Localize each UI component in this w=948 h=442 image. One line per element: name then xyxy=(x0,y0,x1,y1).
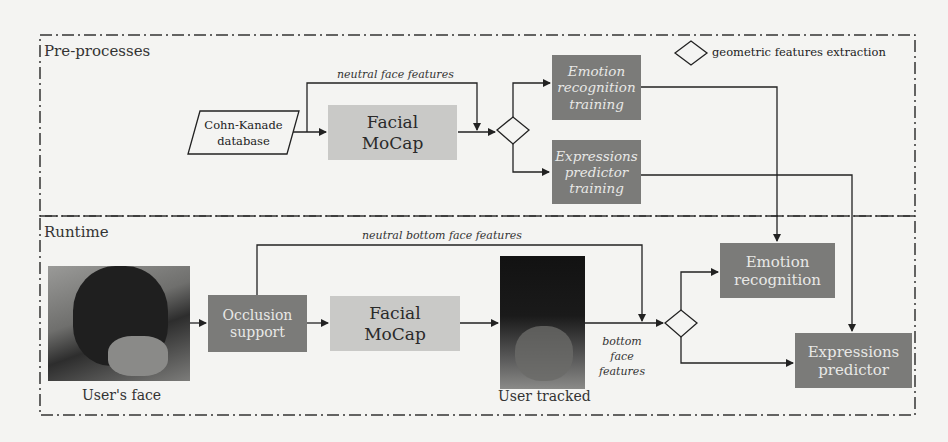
user-tracked-caption: User tracked xyxy=(498,388,591,404)
expr-training-line2: predictor xyxy=(565,164,629,180)
bottom-face-features-label: bottom face features xyxy=(596,335,648,380)
emotion-training-line2: recognition xyxy=(557,79,635,95)
occlusion-line2: support xyxy=(230,324,285,341)
expr-training-line1: Expressions xyxy=(555,148,637,164)
bottom-features-line1: bottom xyxy=(596,335,648,350)
facial-mocap-runtime: Facial MoCap xyxy=(330,296,460,351)
neutral-bottom-features-label: neutral bottom face features xyxy=(362,229,522,242)
occlusion-support: Occlusion support xyxy=(208,295,307,352)
database-node: Cohn-Kanade database xyxy=(187,110,300,155)
tracked-face xyxy=(515,326,573,381)
bottom-features-line3: features xyxy=(596,365,648,380)
mocap-runtime-line1: Facial xyxy=(369,303,420,323)
user-tracked-photo xyxy=(500,256,585,389)
section-label-runtime: Runtime xyxy=(44,223,109,241)
legend-diamond-text: geometric features extraction xyxy=(712,45,886,59)
emotion-line2: recognition xyxy=(734,271,821,289)
expr-training-line3: training xyxy=(569,180,624,196)
neutral-face-features-label: neutral face features xyxy=(337,68,454,81)
mocap-line2: MoCap xyxy=(362,133,424,153)
mocap-runtime-line2: MoCap xyxy=(364,324,426,344)
facial-mocap-preprocess: Facial MoCap xyxy=(328,105,457,160)
users-face-caption: User's face xyxy=(82,387,161,403)
expressions-predictor: Expressions predictor xyxy=(795,333,912,388)
expr-line2: predictor xyxy=(818,361,889,379)
emotion-recognition: Emotion recognition xyxy=(720,243,835,298)
database-label-line2: database xyxy=(187,134,300,150)
emotion-training-line1: Emotion xyxy=(568,63,625,79)
emotion-training-line3: training xyxy=(569,96,624,112)
occlusion-line1: Occlusion xyxy=(223,307,293,324)
emotion-line1: Emotion xyxy=(746,253,810,271)
section-label-preprocesses: Pre-processes xyxy=(44,42,150,60)
database-label-line1: Cohn-Kanade xyxy=(187,118,300,134)
bottom-features-line2: face xyxy=(596,350,648,365)
expr-line1: Expressions xyxy=(808,343,900,361)
emotion-recognition-training: Emotion recognition training xyxy=(552,55,641,120)
mocap-line1: Facial xyxy=(367,112,418,132)
expressions-predictor-training: Expressions predictor training xyxy=(552,140,641,204)
users-face-photo xyxy=(48,266,190,381)
face-lower xyxy=(108,336,168,376)
